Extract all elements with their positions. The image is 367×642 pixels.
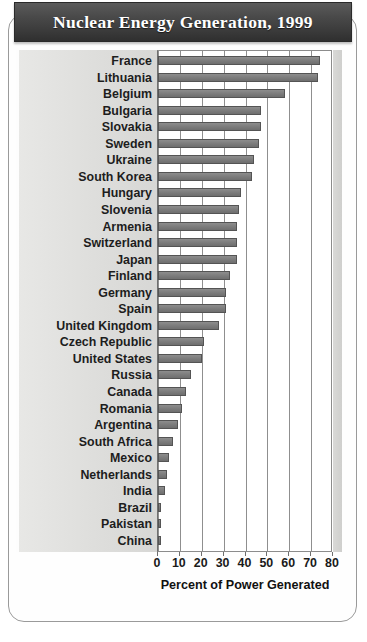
category-label-belgium: Belgium: [16, 88, 152, 100]
tick-label-20: 20: [194, 556, 208, 570]
bar-czech-republic: [158, 337, 204, 346]
bar-india: [158, 486, 165, 495]
tick-label-60: 60: [281, 556, 295, 570]
bar-united-kingdom: [158, 321, 219, 330]
bar-united-states: [158, 354, 202, 363]
tick-label-10: 10: [172, 556, 186, 570]
bar-brazil: [158, 503, 161, 512]
category-label-finland: Finland: [16, 270, 152, 282]
category-label-mexico: Mexico: [16, 452, 152, 464]
bar-bulgaria: [158, 106, 261, 115]
bar-rows: FranceLithuaniaBelgiumBulgariaSlovakiaSw…: [16, 50, 349, 552]
bar-france: [158, 56, 320, 65]
category-label-south-korea: South Korea: [16, 171, 152, 183]
tick-label-30: 30: [216, 556, 230, 570]
category-label-ukraine: Ukraine: [16, 154, 152, 166]
bar-germany: [158, 288, 226, 297]
category-label-lithuania: Lithuania: [16, 72, 152, 84]
x-axis-title: Percent of Power Generated: [157, 578, 333, 592]
category-label-india: India: [16, 485, 152, 497]
bar-japan: [158, 255, 237, 264]
bar-switzerland: [158, 238, 237, 247]
tick-label-50: 50: [259, 556, 273, 570]
category-label-bulgaria: Bulgaria: [16, 105, 152, 117]
category-label-switzerland: Switzerland: [16, 237, 152, 249]
bar-canada: [158, 387, 186, 396]
category-label-canada: Canada: [16, 386, 152, 398]
bar-netherlands: [158, 470, 167, 479]
category-label-pakistan: Pakistan: [16, 518, 152, 530]
bar-sweden: [158, 139, 259, 148]
bar-russia: [158, 370, 191, 379]
category-label-argentina: Argentina: [16, 419, 152, 431]
category-label-slovakia: Slovakia: [16, 121, 152, 133]
bar-hungary: [158, 188, 241, 197]
bar-lithuania: [158, 73, 318, 82]
category-label-sweden: Sweden: [16, 138, 152, 150]
category-label-russia: Russia: [16, 369, 152, 381]
category-label-united-states: United States: [16, 353, 152, 365]
bar-armenia: [158, 222, 237, 231]
tick-label-80: 80: [325, 556, 339, 570]
bar-ukraine: [158, 155, 254, 164]
category-label-united-kingdom: United Kingdom: [16, 320, 152, 332]
bar-finland: [158, 271, 230, 280]
tick-label-70: 70: [303, 556, 317, 570]
page-title: Nuclear Energy Generation, 1999: [53, 12, 313, 33]
category-label-slovenia: Slovenia: [16, 204, 152, 216]
bar-mexico: [158, 453, 169, 462]
bar-slovakia: [158, 122, 261, 131]
category-label-south-africa: South Africa: [16, 436, 152, 448]
bar-south-africa: [158, 437, 173, 446]
category-label-japan: Japan: [16, 254, 152, 266]
bar-slovenia: [158, 205, 239, 214]
x-axis-tick-labels: 01020304050607080: [16, 556, 349, 574]
bar-china: [158, 536, 161, 545]
chart-page: Nuclear Energy Generation, 1999 FranceLi…: [0, 0, 367, 642]
category-label-spain: Spain: [16, 303, 152, 315]
category-label-czech-republic: Czech Republic: [16, 336, 152, 348]
bar-chart: FranceLithuaniaBelgiumBulgariaSlovakiaSw…: [16, 50, 349, 628]
title-banner: Nuclear Energy Generation, 1999: [14, 2, 352, 42]
tick-label-0: 0: [154, 556, 161, 570]
tick-label-40: 40: [238, 556, 252, 570]
category-label-brazil: Brazil: [16, 502, 152, 514]
category-label-romania: Romania: [16, 403, 152, 415]
category-label-hungary: Hungary: [16, 187, 152, 199]
bar-spain: [158, 304, 226, 313]
category-label-armenia: Armenia: [16, 221, 152, 233]
category-label-china: China: [16, 535, 152, 547]
bar-romania: [158, 404, 182, 413]
bar-argentina: [158, 420, 178, 429]
category-label-germany: Germany: [16, 287, 152, 299]
bar-south-korea: [158, 172, 252, 181]
category-label-netherlands: Netherlands: [16, 469, 152, 481]
bar-belgium: [158, 89, 285, 98]
bar-pakistan: [158, 519, 161, 528]
category-label-france: France: [16, 55, 152, 67]
